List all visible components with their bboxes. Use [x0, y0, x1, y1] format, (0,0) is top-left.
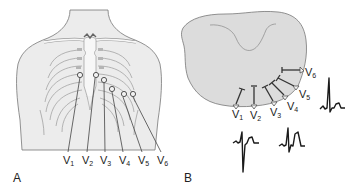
chest-cross-section [181, 11, 306, 106]
lead-label-v2: V2 [82, 154, 93, 167]
lead-label-b-v1: V1 [232, 108, 243, 121]
electrode-v4 [109, 86, 114, 91]
lead-label-b-v2: V2 [250, 109, 261, 122]
panel-label-b: B [184, 171, 192, 185]
ecg-lead-diagram: V1 V2 V3 V4 V5 V6 A [0, 0, 354, 187]
lead-label-v3: V3 [100, 154, 111, 167]
lead-labels-a: V1 V2 V3 V4 V5 V6 [63, 154, 168, 167]
electrode-v1 [77, 72, 82, 77]
lead-label-v4: V4 [119, 154, 130, 167]
lead-label-b-v6: V6 [305, 66, 316, 79]
electrode-v2 [93, 72, 98, 77]
electrode-v6 [130, 91, 135, 96]
lead-label-b-v5: V5 [299, 88, 310, 101]
panel-b: V1 V2 V3 V4 V5 V6 B [181, 11, 345, 185]
waveform-v5-v6 [320, 78, 345, 112]
lead-label-b-v3: V3 [270, 106, 281, 119]
lead-label-v1: V1 [63, 154, 74, 167]
lead-label-v5: V5 [138, 154, 149, 167]
panel-a: V1 V2 V3 V4 V5 V6 A [13, 10, 168, 185]
lead-label-b-v4: V4 [287, 100, 298, 113]
electrode-v3 [101, 77, 106, 82]
waveform-v3-v4 [279, 128, 305, 152]
lead-label-v6: V6 [157, 154, 168, 167]
waveform-v1-v2 [233, 132, 259, 172]
panel-label-a: A [13, 171, 21, 185]
electrode-v5 [121, 91, 126, 96]
